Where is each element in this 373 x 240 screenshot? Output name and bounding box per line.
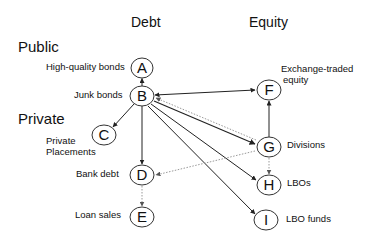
label-exchange-traded-2: equity	[283, 75, 308, 85]
label-divisions: Divisions	[287, 140, 325, 150]
label-high-quality-bonds: High-quality bonds	[46, 62, 125, 72]
column-header-equity: Equity	[249, 15, 288, 30]
node-i-letter: I	[251, 212, 281, 228]
label-private-placements-1: Private	[46, 136, 76, 146]
edge-b-g	[154, 101, 255, 144]
node-e-letter: E	[127, 209, 157, 225]
label-lbos: LBOs	[287, 178, 311, 188]
node-f-letter: F	[254, 82, 284, 98]
label-private-placements-2: Placements	[46, 147, 96, 157]
edge-b-f	[155, 90, 255, 95]
row-header-private: Private	[18, 111, 65, 128]
column-header-debt: Debt	[131, 15, 161, 30]
edge-b-h	[151, 104, 256, 180]
diagram-canvas: A B C D E F G H I Debt Equity Public Pri…	[0, 0, 373, 240]
label-exchange-traded-1: Exchange-traded	[281, 64, 353, 74]
label-junk-bonds: Junk bonds	[74, 90, 123, 100]
edge-g-d	[156, 151, 255, 175]
label-lbo-funds: LBO funds	[286, 214, 331, 224]
node-b-letter: B	[127, 88, 157, 104]
node-c-letter: C	[89, 127, 119, 143]
row-header-public: Public	[18, 39, 59, 56]
label-bank-debt: Bank debt	[76, 169, 119, 179]
edge-b-c	[113, 104, 134, 127]
node-d-letter: D	[127, 167, 157, 183]
node-h-letter: H	[254, 177, 284, 193]
node-a-letter: A	[127, 60, 157, 76]
node-g-letter: G	[254, 139, 284, 155]
label-loan-sales: Loan sales	[75, 210, 121, 220]
edge-b-i	[148, 106, 255, 214]
